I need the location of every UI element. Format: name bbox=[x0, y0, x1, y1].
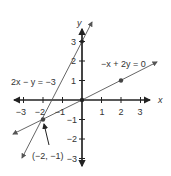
line2-equation-label: −x + 2y = 0 bbox=[101, 59, 146, 69]
x-tick-label: 1 bbox=[99, 107, 104, 117]
x-tick-label: −1 bbox=[55, 107, 65, 117]
point-origin bbox=[80, 98, 84, 102]
coordinate-plane: x y −3 −2 −1 1 2 3 3 2 1 −1 −2 −3 2x − y… bbox=[0, 0, 171, 176]
y-tick-label: −1 bbox=[67, 115, 77, 125]
point-neg2-neg1 bbox=[41, 117, 45, 121]
point-label-arrow bbox=[44, 124, 49, 145]
x-tick-label: 3 bbox=[137, 107, 142, 117]
point-0-3 bbox=[80, 40, 84, 44]
x-tick-label: −3 bbox=[16, 107, 26, 117]
y-tick-label: −2 bbox=[67, 134, 77, 144]
x-axis-label: x bbox=[157, 95, 163, 105]
x-tick-label: −2 bbox=[35, 107, 45, 117]
line1-equation-label: 2x − y = −3 bbox=[11, 77, 56, 87]
line-2x-minus-y bbox=[82, 22, 92, 42]
y-tick-label: −3 bbox=[67, 154, 77, 164]
point-2-1 bbox=[119, 78, 123, 82]
point-label: (−2, −1) bbox=[32, 151, 64, 161]
y-tick-label: 1 bbox=[71, 76, 76, 86]
y-axis-label: y bbox=[76, 18, 82, 28]
graph-figure: x y −3 −2 −1 1 2 3 3 2 1 −1 −2 −3 2x − y… bbox=[0, 0, 171, 176]
y-tick-label: 3 bbox=[71, 37, 76, 47]
y-tick-label: 2 bbox=[71, 56, 76, 66]
x-tick-label: 2 bbox=[118, 107, 123, 117]
